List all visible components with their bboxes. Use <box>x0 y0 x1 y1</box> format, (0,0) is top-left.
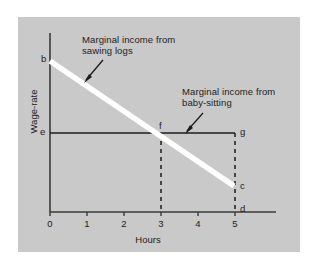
series-line-sawing-logs <box>50 61 234 186</box>
point-label-c: c <box>240 180 245 191</box>
point-label-f: f <box>159 120 162 131</box>
point-label-g: g <box>240 126 245 137</box>
y-axis-title: Wage-rate <box>28 77 39 147</box>
point-label-b: b <box>41 53 46 64</box>
x-tick-label-5: 5 <box>228 218 242 229</box>
x-axis-title: Hours <box>118 234 178 245</box>
x-tick-label-1: 1 <box>80 218 94 229</box>
point-label-e: e <box>40 126 45 137</box>
chart-figure: Marginal income from sawing logs Margina… <box>0 0 317 271</box>
x-tick-label-0: 0 <box>43 218 57 229</box>
x-tick-label-4: 4 <box>191 218 205 229</box>
x-tick-label-3: 3 <box>154 218 168 229</box>
x-tick-label-2: 2 <box>117 218 131 229</box>
annotation-arrow-babysitting-icon <box>185 113 203 134</box>
annotation-arrow-sawing-icon <box>84 60 103 83</box>
point-label-d: d <box>240 203 245 214</box>
annotation-label-babysitting: Marginal income from baby-sitting <box>182 86 275 108</box>
annotation-label-sawing-logs: Marginal income from sawing logs <box>82 34 175 56</box>
